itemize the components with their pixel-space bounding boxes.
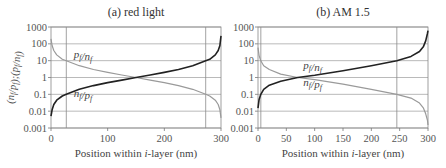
y-tick-label: 0.1 xyxy=(241,89,254,100)
x-tick-label: 300 xyxy=(213,133,229,144)
series-annotation: nf/pf xyxy=(74,87,94,103)
y-tick-label: 0.001 xyxy=(230,123,254,134)
y-tick-label: 10 xyxy=(37,55,48,66)
series-annotation: pf/nf xyxy=(73,48,94,64)
x-axis-label: Position within i-layer (nm) xyxy=(75,147,198,160)
panel-b-am15: (b) AM 1.510001001010.10.010.00105010015… xyxy=(230,5,436,160)
x-tick-label: 150 xyxy=(335,133,351,144)
x-tick-label: 0 xyxy=(48,133,53,144)
series-annotation: pf/nf xyxy=(302,59,323,75)
series-nf-over-pf xyxy=(258,31,428,109)
y-axis-label: (nf/pf);(pf/nf) xyxy=(5,51,25,104)
y-tick-label: 10 xyxy=(244,55,255,66)
x-tick-label: 0 xyxy=(255,133,260,144)
series-annotation: nf/pf xyxy=(303,76,323,92)
y-tick-label: 1000 xyxy=(233,22,254,33)
y-tick-label: 100 xyxy=(31,38,47,49)
x-tick-label: 200 xyxy=(156,133,172,144)
y-tick-label: 0.01 xyxy=(29,106,47,117)
figure: (a) red light10001001010.10.010.00101002… xyxy=(0,0,446,168)
x-tick-label: 100 xyxy=(307,133,323,144)
y-tick-label: 0.1 xyxy=(34,89,47,100)
x-tick-label: 200 xyxy=(363,133,379,144)
panel-a-red-light: (a) red light10001001010.10.010.00101002… xyxy=(5,5,229,160)
y-tick-label: 1000 xyxy=(26,22,47,33)
y-tick-label: 1 xyxy=(42,72,47,83)
x-tick-label: 100 xyxy=(100,133,116,144)
chart-title: (b) AM 1.5 xyxy=(316,5,370,19)
y-tick-label: 100 xyxy=(238,38,254,49)
x-tick-label: 250 xyxy=(392,133,408,144)
y-tick-label: 0.001 xyxy=(23,123,47,134)
y-tick-label: 0.01 xyxy=(236,106,254,117)
chart-title: (a) red light xyxy=(108,5,165,19)
y-tick-label: 1 xyxy=(249,72,254,83)
x-tick-label: 300 xyxy=(420,133,436,144)
x-axis-label: Position within i-layer (nm) xyxy=(282,147,405,160)
x-tick-label: 50 xyxy=(281,133,292,144)
